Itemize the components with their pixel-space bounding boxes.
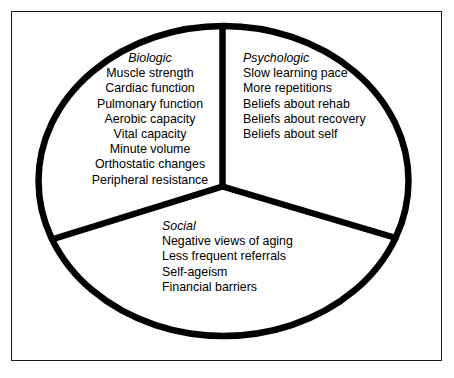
sector-social-item-1: Less frequent referrals bbox=[162, 249, 332, 264]
sector-social-item-0: Negative views of aging bbox=[162, 234, 332, 249]
sector-social-heading: Social bbox=[162, 219, 332, 234]
sector-biologic-item-4: Vital capacity bbox=[84, 127, 216, 142]
sector-biologic: Biologic Muscle strength Cardiac functio… bbox=[84, 51, 216, 188]
sector-biologic-item-6: Orthostatic changes bbox=[84, 157, 216, 172]
sector-biologic-item-5: Minute volume bbox=[84, 142, 216, 157]
figure-root: Biologic Muscle strength Cardiac functio… bbox=[0, 0, 454, 378]
sector-social-item-3: Financial barriers bbox=[162, 280, 332, 295]
sector-social: Social Negative views of aging Less freq… bbox=[162, 219, 332, 295]
sector-biologic-heading: Biologic bbox=[84, 51, 216, 66]
sector-psychologic-item-4: Beliefs about self bbox=[243, 127, 393, 142]
sector-biologic-item-1: Cardiac function bbox=[84, 81, 216, 96]
sector-biologic-item-0: Muscle strength bbox=[84, 66, 216, 81]
sector-psychologic-item-1: More repetitions bbox=[243, 81, 393, 96]
sector-biologic-item-7: Peripheral resistance bbox=[84, 173, 216, 188]
sector-psychologic-item-3: Beliefs about recovery bbox=[243, 112, 393, 127]
sector-biologic-item-3: Aerobic capacity bbox=[84, 112, 216, 127]
sector-social-item-2: Self-ageism bbox=[162, 265, 332, 280]
sector-psychologic-item-2: Beliefs about rehab bbox=[243, 97, 393, 112]
sector-psychologic-item-0: Slow learning pace bbox=[243, 66, 393, 81]
sector-psychologic: Psychologic Slow learning pace More repe… bbox=[243, 51, 393, 142]
sector-psychologic-heading: Psychologic bbox=[243, 51, 393, 66]
sector-biologic-item-2: Pulmonary function bbox=[84, 97, 216, 112]
